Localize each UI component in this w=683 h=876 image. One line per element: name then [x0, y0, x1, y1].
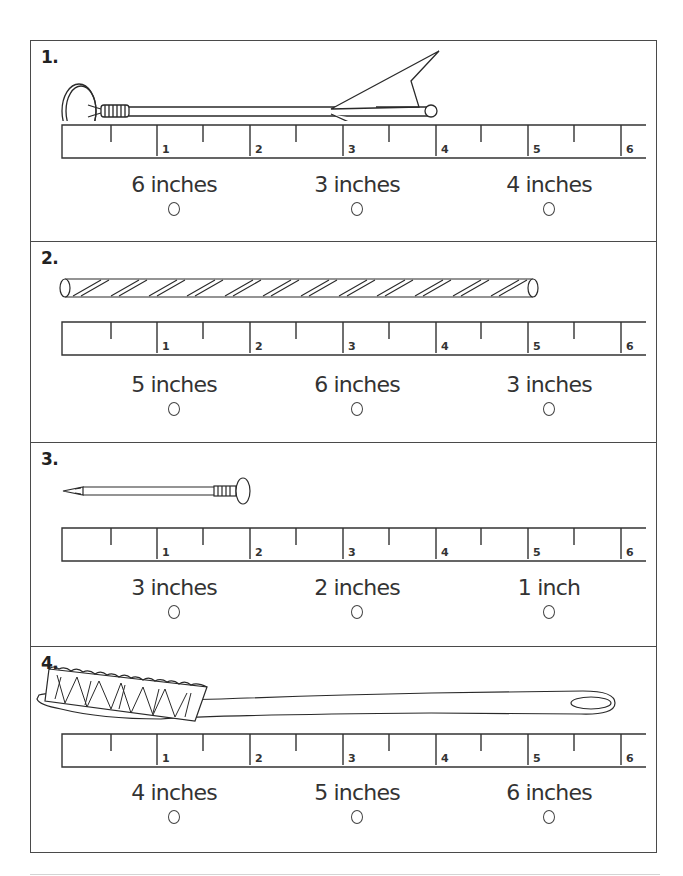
- ruler: 1 2 3 4 5 6: [31, 527, 656, 563]
- svg-text:1: 1: [162, 752, 170, 765]
- measurement-worksheet: 1.: [30, 40, 657, 853]
- svg-text:6: 6: [626, 752, 634, 765]
- choice-c[interactable]: 6 inches: [479, 780, 619, 828]
- svg-text:4: 4: [441, 546, 449, 559]
- choice-c[interactable]: 1 inch: [479, 575, 619, 623]
- choice-c[interactable]: 4 inches: [479, 172, 619, 220]
- choice-label: 4 inches: [479, 172, 619, 198]
- svg-text:4: 4: [441, 752, 449, 765]
- choice-label: 1 inch: [479, 575, 619, 601]
- answer-bubble[interactable]: [351, 605, 363, 619]
- question-4: 4. 1 2: [31, 647, 656, 852]
- svg-text:4: 4: [441, 143, 449, 156]
- choice-a[interactable]: 3 inches: [104, 575, 244, 623]
- toothbrush-icon: [31, 647, 656, 727]
- svg-text:2: 2: [255, 752, 263, 765]
- svg-text:6: 6: [626, 546, 634, 559]
- choice-b[interactable]: 6 inches: [287, 372, 427, 420]
- choice-label: 4 inches: [104, 780, 244, 806]
- choice-label: 3 inches: [287, 172, 427, 198]
- choice-b[interactable]: 3 inches: [287, 172, 427, 220]
- nail-icon: [31, 443, 656, 513]
- ruler: 1 2 3 4 5 6: [31, 733, 656, 769]
- ruler: 1 2 3 4 5 6: [31, 124, 656, 160]
- answer-bubble[interactable]: [351, 402, 363, 416]
- svg-text:1: 1: [162, 546, 170, 559]
- svg-text:3: 3: [348, 546, 356, 559]
- svg-text:6: 6: [626, 143, 634, 156]
- choice-label: 5 inches: [287, 780, 427, 806]
- ruler: 1 2 3 4 5 6: [31, 321, 656, 357]
- choice-a[interactable]: 4 inches: [104, 780, 244, 828]
- svg-text:1: 1: [162, 143, 170, 156]
- question-1: 1.: [31, 41, 656, 241]
- choice-label: 2 inches: [287, 575, 427, 601]
- arrow-icon: [31, 41, 656, 121]
- svg-text:1: 1: [162, 340, 170, 353]
- svg-text:6: 6: [626, 340, 634, 353]
- svg-text:3: 3: [348, 340, 356, 353]
- answer-bubble[interactable]: [168, 402, 180, 416]
- choice-label: 3 inches: [104, 575, 244, 601]
- answer-bubble[interactable]: [168, 605, 180, 619]
- svg-text:2: 2: [255, 340, 263, 353]
- svg-text:2: 2: [255, 546, 263, 559]
- answer-bubble[interactable]: [351, 202, 363, 216]
- choice-a[interactable]: 6 inches: [104, 172, 244, 220]
- answer-bubble[interactable]: [351, 810, 363, 824]
- svg-text:5: 5: [533, 752, 541, 765]
- svg-text:3: 3: [348, 143, 356, 156]
- answer-bubble[interactable]: [543, 402, 555, 416]
- svg-text:5: 5: [533, 546, 541, 559]
- choice-b[interactable]: 2 inches: [287, 575, 427, 623]
- answer-bubble[interactable]: [168, 810, 180, 824]
- choice-label: 5 inches: [104, 372, 244, 398]
- svg-text:5: 5: [533, 143, 541, 156]
- answer-bubble[interactable]: [543, 605, 555, 619]
- page-footer-rule: [30, 874, 660, 875]
- svg-text:2: 2: [255, 143, 263, 156]
- question-3: 3. 1 2 3 4 5 6: [31, 443, 656, 646]
- choice-label: 3 inches: [479, 372, 619, 398]
- svg-text:5: 5: [533, 340, 541, 353]
- straw-icon: [31, 242, 656, 312]
- choice-label: 6 inches: [479, 780, 619, 806]
- choice-a[interactable]: 5 inches: [104, 372, 244, 420]
- answer-bubble[interactable]: [543, 810, 555, 824]
- answer-bubble[interactable]: [168, 202, 180, 216]
- choice-label: 6 inches: [287, 372, 427, 398]
- choice-label: 6 inches: [104, 172, 244, 198]
- question-2: 2.: [31, 242, 656, 443]
- choice-b[interactable]: 5 inches: [287, 780, 427, 828]
- svg-text:4: 4: [441, 340, 449, 353]
- choice-c[interactable]: 3 inches: [479, 372, 619, 420]
- svg-text:3: 3: [348, 752, 356, 765]
- answer-bubble[interactable]: [543, 202, 555, 216]
